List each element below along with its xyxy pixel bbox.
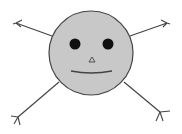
limb-fork-hand xyxy=(156,111,170,121)
right-eye xyxy=(103,39,114,50)
left-eye xyxy=(70,39,81,50)
smiley-figure xyxy=(0,0,182,134)
smiley-figure-canvas xyxy=(0,0,182,134)
limb-line xyxy=(130,23,167,36)
limb-upper-right xyxy=(130,20,170,36)
limb-upper-left xyxy=(13,20,52,36)
limb-lower-left xyxy=(11,82,59,125)
limb-line xyxy=(16,23,52,36)
limb-line xyxy=(124,82,160,112)
limb-line xyxy=(18,82,59,117)
limb-fork-hand xyxy=(13,20,22,27)
face-circle xyxy=(49,11,133,95)
limb-fork-hand xyxy=(11,116,20,125)
limb-lower-right xyxy=(124,82,170,121)
